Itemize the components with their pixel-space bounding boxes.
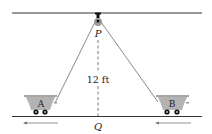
cart-b-hitch <box>186 102 189 104</box>
pulley-hub <box>97 20 100 23</box>
rope-to-cart-b <box>101 22 158 102</box>
cart-a-rim <box>24 95 57 97</box>
cart-b: B <box>156 95 189 115</box>
cart-a-wheel-right-hub <box>44 111 46 113</box>
pulley-mount-cap <box>95 13 101 15</box>
pulley-diagram: P 12 ft Q A B <box>0 0 212 134</box>
cart-b-rim <box>156 95 189 97</box>
cart-b-wheel-right-hub <box>176 111 178 113</box>
cart-b-wheel-left-hub <box>166 111 168 113</box>
cart-a-label: A <box>37 99 45 109</box>
ground-point-label: Q <box>94 121 102 132</box>
height-label: 12 ft <box>87 74 110 85</box>
rope-to-cart-a <box>55 22 95 103</box>
cart-a-wheel-left-hub <box>35 111 37 113</box>
cart-a-hitch <box>54 102 57 104</box>
cart-b-motion-arrow-icon <box>155 122 191 125</box>
cart-a-motion-arrow-icon <box>23 122 58 125</box>
pulley-label: P <box>94 28 102 39</box>
cart-b-label: B <box>169 99 176 109</box>
cart-a: A <box>24 95 57 115</box>
